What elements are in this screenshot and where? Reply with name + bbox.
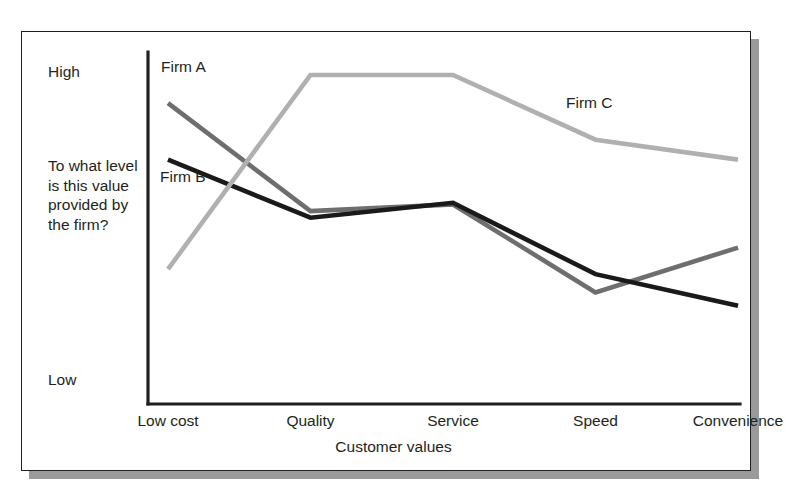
plot-area: [0, 0, 787, 504]
series-line-firm-b: [168, 160, 738, 306]
series-line-firm-c: [168, 75, 738, 269]
figure-container: High To what level is this value provide…: [0, 0, 787, 504]
series-line-firm-a: [168, 103, 738, 292]
